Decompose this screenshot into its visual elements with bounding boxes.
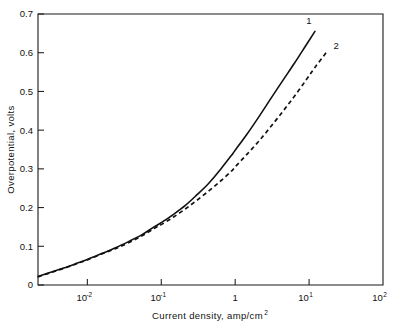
x-axis-title-superscript: 2 bbox=[264, 309, 268, 316]
x-tick-mantissa-3: 10 bbox=[298, 292, 309, 303]
chart-canvas: 00.10.20.30.40.50.60.7 10-210-11101102 1… bbox=[0, 0, 416, 328]
y-tick-label-2: 0.2 bbox=[20, 202, 33, 213]
y-axis-title-text: Overpotential, volts bbox=[5, 105, 16, 193]
curve-label-2: 2 bbox=[333, 40, 338, 51]
y-tick-label-4: 0.4 bbox=[20, 125, 33, 136]
y-axis-title: Overpotential, volts bbox=[5, 105, 16, 193]
y-tick-label-6: 0.6 bbox=[20, 47, 33, 58]
x-axis-title: Current density, amp/cm2 bbox=[152, 309, 268, 322]
curve-label-1: 1 bbox=[306, 15, 311, 26]
x-tick-exponent-0: -2 bbox=[86, 291, 92, 298]
x-tick-label-2: 1 bbox=[233, 292, 238, 303]
y-tick-label-5: 0.5 bbox=[20, 86, 33, 97]
chart-background bbox=[0, 0, 416, 328]
y-tick-label-0: 0 bbox=[28, 279, 33, 290]
x-tick-exponent-3: 1 bbox=[309, 291, 313, 298]
x-tick-mantissa-2: 1 bbox=[233, 292, 238, 303]
y-tick-label-1: 0.1 bbox=[20, 241, 33, 252]
x-tick-exponent-4: 2 bbox=[383, 291, 387, 298]
y-tick-label-7: 0.7 bbox=[20, 8, 33, 19]
y-tick-label-3: 0.3 bbox=[20, 163, 33, 174]
chart-figure: 00.10.20.30.40.50.60.7 10-210-11101102 1… bbox=[0, 0, 416, 328]
x-tick-exponent-1: -1 bbox=[160, 291, 166, 298]
x-axis-title-text: Current density, amp/cm bbox=[152, 310, 263, 321]
x-tick-mantissa-4: 10 bbox=[372, 292, 383, 303]
